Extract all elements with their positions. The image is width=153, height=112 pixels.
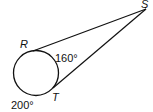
tangent-RS [33,9,146,51]
tangent-TS [53,9,146,88]
diagram-canvas: S R T 160° 200° [0,0,153,112]
label-R: R [20,38,28,50]
label-T: T [52,91,60,103]
circle [14,51,59,96]
label-arc-200: 200° [11,99,34,111]
label-arc-160: 160° [55,52,78,64]
label-S: S [141,0,149,10]
